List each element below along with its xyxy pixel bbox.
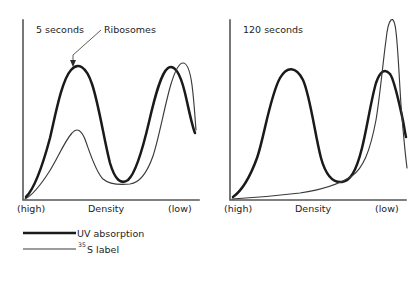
x-axis-tick-low-left: (low) [168, 203, 192, 214]
x-axis-tick-low-right: (low) [375, 203, 399, 214]
x-axis-label-left: Density [88, 203, 124, 214]
panel-title-left: 5 seconds [36, 24, 84, 35]
legend-label-uv-absorption: UV absorption [77, 228, 144, 239]
sedimentation-profile-figure: 5 seconds Ribosomes (high) Density (low)… [0, 0, 418, 282]
figure-background [0, 0, 418, 282]
x-axis-tick-high-right: (high) [224, 203, 252, 214]
panel-title-right: 120 seconds [243, 24, 303, 35]
legend-label-s35-label: S label [87, 244, 119, 255]
legend-label-s35-superscript: 35 [78, 241, 86, 248]
x-axis-label-right: Density [295, 203, 331, 214]
x-axis-tick-high-left: (high) [17, 203, 45, 214]
annotation-ribosomes-label: Ribosomes [104, 24, 156, 35]
